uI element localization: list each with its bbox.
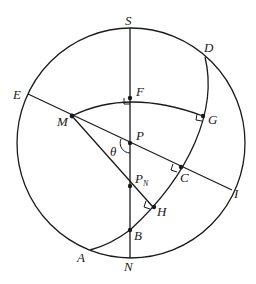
arc-DA xyxy=(90,57,208,250)
label-PN: PN xyxy=(134,171,149,188)
label-A: A xyxy=(76,250,85,265)
spherical-triangle-diagram: S D E F G M P θ PN C I H B A N xyxy=(0,0,256,284)
label-N: N xyxy=(123,259,134,274)
label-theta: θ xyxy=(110,144,117,159)
label-G: G xyxy=(208,112,218,127)
arc-MFG xyxy=(72,102,203,116)
label-D: D xyxy=(203,40,214,55)
label-I: I xyxy=(233,186,239,201)
label-S: S xyxy=(125,13,132,28)
right-angle-C xyxy=(171,164,177,172)
point-G xyxy=(201,114,205,118)
point-H xyxy=(152,205,156,209)
label-E: E xyxy=(12,87,21,102)
point-B xyxy=(128,228,132,232)
label-H: H xyxy=(156,204,167,219)
label-M: M xyxy=(56,114,69,129)
label-P: P xyxy=(135,128,144,143)
label-F: F xyxy=(135,84,145,99)
point-C xyxy=(179,165,183,169)
point-PN xyxy=(128,184,132,188)
point-P xyxy=(128,141,132,145)
label-C: C xyxy=(180,170,189,185)
point-M xyxy=(70,114,75,119)
label-B: B xyxy=(134,228,142,243)
point-F xyxy=(128,96,132,100)
